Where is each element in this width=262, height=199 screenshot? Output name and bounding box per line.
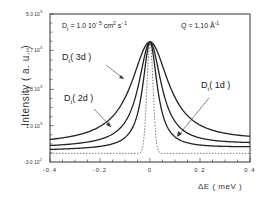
q-annotation: Q = 1.10 Å-1 [181,20,219,29]
legend-label-3d: Dt( 3d ) [62,52,91,64]
chart-svg [0,0,262,199]
diffusion-annotation: Dt = 1.0 10- 5 cm2 s- 1 [62,20,127,32]
y-axis-ticks [50,14,54,153]
x-tick-label: -0.4 [43,167,57,173]
y-axis-label: Intensity ( a. u. ) [20,31,31,141]
x-tick-label: 0.4 [244,167,255,173]
x-axis-label: ΔE ( meV ) [198,182,242,191]
legend-label-1d: Dt( 1d ) [201,80,230,92]
arrow-1d [177,98,209,137]
x-axis-ticks [50,158,250,162]
legend-label-2d: Dt( 2d ) [64,93,93,105]
y-tick-label: -3.0 102 [24,157,42,165]
y-tick-label: 5.0 103 [26,9,42,17]
arrow-3d [106,65,124,79]
x-tick-label: 0.2 [194,167,205,173]
x-tick-label: 0 [148,167,152,173]
x-tick-label: -0.2 [93,167,107,173]
